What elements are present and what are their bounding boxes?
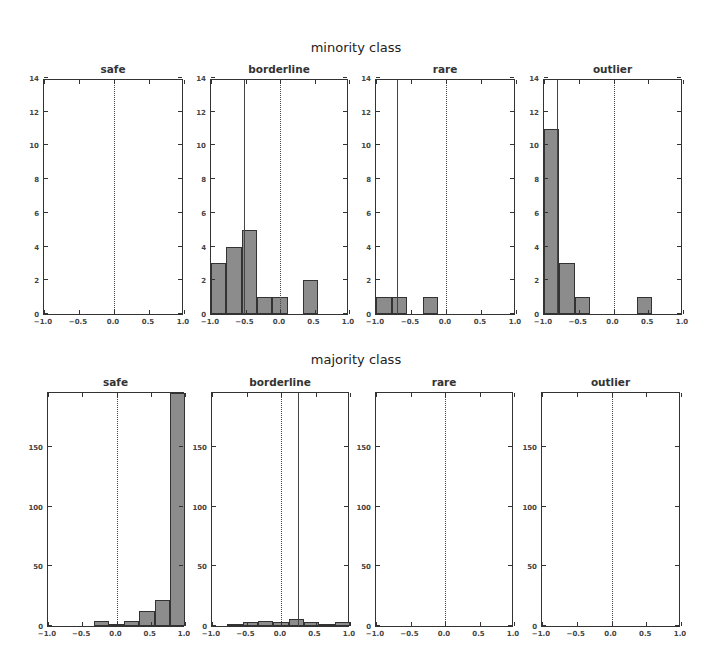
axes-majority-safe	[47, 392, 184, 627]
x-tick-label: 1.0	[676, 318, 688, 326]
y-tick-label: 2	[21, 277, 39, 285]
x-tick-label: −1.0	[532, 630, 550, 638]
panel-title-majority-outlier: outlier	[541, 376, 680, 388]
x-tick-mark	[446, 80, 447, 84]
y-tick-mark	[376, 178, 380, 179]
x-tick-mark	[516, 310, 517, 314]
y-tick-mark	[508, 625, 512, 626]
histogram-bar	[94, 621, 109, 626]
y-tick-mark	[212, 625, 216, 626]
y-tick-label: 6	[353, 210, 371, 218]
y-tick-mark	[179, 565, 183, 566]
x-tick-label: −0.5	[236, 630, 254, 638]
x-tick-mark	[212, 393, 213, 397]
x-tick-label: −0.5	[72, 630, 90, 638]
row-title-majority: majority class	[0, 352, 712, 367]
x-tick-mark	[614, 310, 615, 314]
x-tick-label: −0.5	[569, 318, 587, 326]
histogram-bar	[303, 280, 318, 314]
y-tick-label: 100	[189, 504, 207, 512]
y-tick-mark	[211, 212, 215, 213]
y-tick-mark	[677, 144, 681, 145]
x-tick-mark	[445, 622, 446, 626]
x-tick-label: 0.5	[142, 318, 154, 326]
x-tick-label: −0.5	[400, 630, 418, 638]
x-tick-mark	[481, 310, 482, 314]
y-tick-label: 0	[521, 311, 539, 319]
y-tick-mark	[675, 506, 679, 507]
x-tick-mark	[612, 622, 613, 626]
x-tick-mark	[315, 80, 316, 84]
y-tick-mark	[544, 279, 548, 280]
y-tick-mark	[343, 212, 347, 213]
axes-minority-borderline	[210, 79, 348, 315]
y-tick-label: 50	[25, 563, 43, 571]
histogram-bar	[211, 263, 226, 314]
y-tick-mark	[376, 446, 380, 447]
y-tick-mark	[44, 246, 48, 247]
x-tick-mark	[151, 622, 152, 626]
y-tick-label: 100	[353, 504, 371, 512]
y-tick-label: 10	[21, 142, 39, 150]
y-tick-mark	[178, 111, 182, 112]
y-tick-label: 12	[21, 109, 39, 117]
y-tick-mark	[510, 178, 514, 179]
x-tick-mark	[211, 80, 212, 84]
y-tick-label: 14	[353, 75, 371, 83]
x-tick-mark	[577, 622, 578, 626]
x-tick-mark	[480, 393, 481, 397]
y-tick-mark	[544, 111, 548, 112]
y-tick-label: 0	[188, 311, 206, 319]
y-tick-label: 12	[353, 109, 371, 117]
x-tick-mark	[411, 622, 412, 626]
y-tick-mark	[376, 77, 380, 78]
y-tick-label: 0	[189, 623, 207, 631]
y-tick-label: 8	[521, 176, 539, 184]
y-tick-mark	[44, 279, 48, 280]
x-tick-label: −0.5	[401, 318, 419, 326]
histogram-bar	[289, 619, 304, 626]
zero-reference-line	[446, 80, 447, 314]
y-tick-label: 150	[189, 444, 207, 452]
y-tick-mark	[376, 246, 380, 247]
y-tick-label: 0	[353, 311, 371, 319]
y-tick-mark	[211, 246, 215, 247]
x-tick-mark	[79, 310, 80, 314]
y-tick-mark	[178, 212, 182, 213]
mean-line	[557, 80, 558, 314]
x-tick-label: 1.0	[178, 630, 190, 638]
y-tick-mark	[44, 313, 48, 314]
y-tick-mark	[508, 446, 512, 447]
x-tick-label: 1.0	[342, 318, 354, 326]
x-tick-mark	[349, 310, 350, 314]
panel-title-minority-safe: safe	[43, 63, 183, 75]
y-tick-mark	[544, 313, 548, 314]
y-tick-mark	[544, 178, 548, 179]
x-tick-mark	[44, 80, 45, 84]
histogram-bar	[258, 621, 273, 626]
y-tick-mark	[542, 565, 546, 566]
x-tick-mark	[316, 393, 317, 397]
x-tick-mark	[681, 393, 682, 397]
x-tick-mark	[184, 80, 185, 84]
y-tick-label: 50	[519, 563, 537, 571]
y-tick-label: 12	[188, 109, 206, 117]
histogram-bar	[227, 624, 242, 626]
y-tick-mark	[675, 565, 679, 566]
y-tick-mark	[343, 178, 347, 179]
x-tick-label: 0.5	[307, 318, 319, 326]
y-tick-mark	[376, 111, 380, 112]
x-tick-mark	[184, 310, 185, 314]
y-tick-mark	[677, 178, 681, 179]
y-tick-mark	[179, 446, 183, 447]
histogram-bar	[376, 297, 392, 314]
x-tick-mark	[185, 393, 186, 397]
y-tick-mark	[44, 111, 48, 112]
x-tick-mark	[149, 310, 150, 314]
zero-reference-line	[445, 393, 446, 626]
zero-reference-line	[614, 80, 615, 314]
x-tick-mark	[376, 393, 377, 397]
x-tick-mark	[117, 622, 118, 626]
axes-majority-rare	[375, 392, 513, 627]
x-tick-mark	[246, 310, 247, 314]
